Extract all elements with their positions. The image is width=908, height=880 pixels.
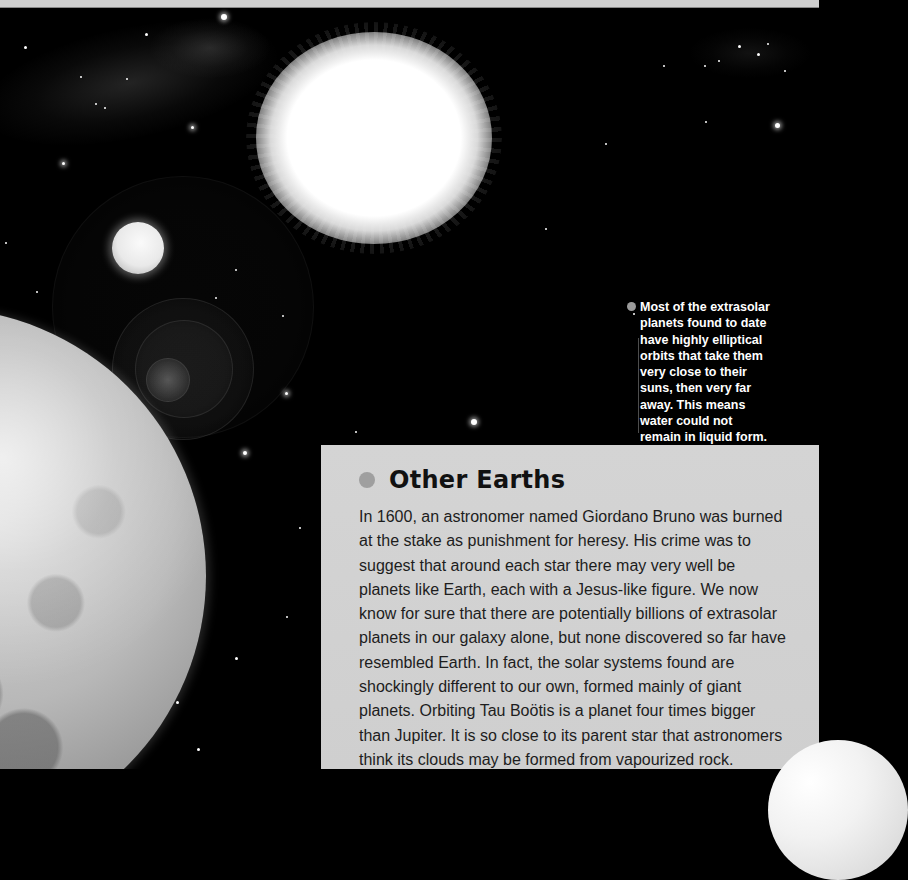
body-line: at the stake as punishment for heresy. H… [359, 529, 815, 553]
star-cluster-haze [690, 28, 810, 78]
star-icon [221, 14, 227, 20]
caption-line: orbits that take them [640, 348, 810, 364]
star-icon [738, 45, 741, 48]
body-line: planets. Orbiting Tau Boötis is a planet… [359, 699, 815, 723]
star-icon [775, 123, 780, 128]
star-icon [704, 65, 706, 67]
caption-leader-line [638, 338, 639, 433]
caption-line: have highly elliptical [640, 332, 810, 348]
star-icon [767, 43, 769, 45]
body-line: suggest that around each star there may … [359, 554, 815, 578]
star-icon [243, 451, 247, 455]
star-icon [286, 616, 288, 618]
star-icon [235, 657, 238, 660]
star-icon [605, 143, 607, 145]
caption-line: water could not [640, 413, 810, 429]
body-line: In 1600, an astronomer named Giordano Br… [359, 505, 815, 529]
star-icon [176, 701, 179, 704]
star-icon [663, 65, 665, 67]
heading-title: Other Earths [389, 466, 565, 494]
page-top-border [0, 0, 819, 8]
star-icon [197, 748, 200, 751]
star-icon [718, 60, 720, 62]
lens-flare-ring [146, 358, 190, 402]
star-icon [24, 46, 27, 49]
article-body: In 1600, an astronomer named Giordano Br… [359, 505, 815, 772]
star-icon [784, 70, 786, 72]
star-icon [62, 162, 65, 165]
caption-line: away. This means [640, 397, 810, 413]
star-icon [5, 242, 7, 244]
star-icon [145, 33, 148, 36]
body-line: than Jupiter. It is so close to its pare… [359, 724, 815, 748]
article-heading: Other Earths [359, 466, 565, 494]
bullet-icon [359, 472, 375, 488]
caption-line: planets found to date [640, 315, 810, 331]
small-moon-icon [112, 222, 164, 274]
star-icon [757, 53, 760, 56]
star-icon [104, 107, 106, 109]
milky-way-haze [150, 18, 270, 78]
star-icon [705, 121, 707, 123]
star-icon [95, 103, 97, 105]
caption-line: very close to their [640, 364, 810, 380]
caption-line: suns, then very far [640, 380, 810, 396]
body-line: planets in our galaxy alone, but none di… [359, 626, 815, 650]
side-caption: Most of the extrasolar planets found to … [640, 299, 810, 446]
body-line: know for sure that there are potentially… [359, 602, 815, 626]
star-icon [299, 527, 301, 529]
caption-line: Most of the extrasolar [640, 299, 810, 315]
bullet-icon [627, 302, 636, 311]
body-line: planets like Earth, each with a Jesus-li… [359, 578, 815, 602]
caption-line: remain in liquid form. [640, 429, 810, 445]
star-icon [36, 291, 38, 293]
star-icon [126, 78, 128, 80]
body-line: think its clouds may be formed from vapo… [359, 748, 815, 772]
partial-planet-icon [768, 740, 908, 880]
article-box: Other Earths In 1600, an astronomer name… [321, 445, 819, 769]
star-icon [545, 228, 547, 230]
star-icon [80, 76, 82, 78]
star-icon [355, 431, 357, 433]
star-icon [633, 313, 635, 315]
star-icon [285, 392, 288, 395]
body-line: resembled Earth. In fact, the solar syst… [359, 651, 815, 675]
star-icon [191, 126, 194, 129]
star-icon [471, 419, 477, 425]
star-rays-icon [246, 22, 502, 254]
body-line: shockingly different to our own, formed … [359, 675, 815, 699]
